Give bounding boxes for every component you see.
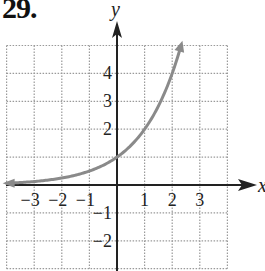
y-tick-label: 4 (103, 63, 112, 83)
x-tick-label: 1 (140, 190, 149, 210)
y-tick-label: −2 (93, 231, 112, 251)
x-tick-label: −3 (21, 190, 40, 210)
x-tick-label: 3 (195, 190, 204, 210)
x-tick-label: 2 (168, 190, 177, 210)
curve-arrow-up-icon (175, 41, 185, 53)
exponential-graph: −3−2−1123432−1−2 x y (0, 0, 265, 271)
curve-arrow-left-icon (3, 179, 15, 188)
y-tick-label: −1 (93, 203, 112, 223)
curve-2-to-the-x (3, 41, 185, 188)
curve-line (7, 48, 181, 184)
y-axis-label: y (109, 0, 120, 21)
y-tick-label: 3 (103, 91, 112, 111)
x-axis-label: x (257, 174, 265, 196)
x-tick-label: −2 (48, 190, 67, 210)
y-tick-label: 2 (103, 119, 112, 139)
